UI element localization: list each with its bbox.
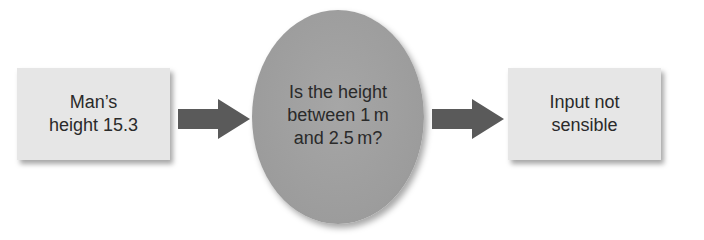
arrow-right-icon bbox=[178, 99, 250, 139]
decision-ellipse: Is the height between 1 m and 2.5 m? bbox=[252, 10, 424, 224]
decision-line-1: Is the height bbox=[287, 81, 389, 104]
output-box: Input not sensible bbox=[508, 68, 661, 160]
input-box: Man’s height 15.3 bbox=[17, 68, 170, 160]
output-box-line-1: Input not bbox=[549, 91, 619, 114]
input-box-line-2: height 15.3 bbox=[49, 114, 138, 137]
input-box-line-1: Man’s bbox=[49, 91, 138, 114]
decision-line-2: between 1 m bbox=[287, 104, 389, 127]
arrow-right-icon bbox=[432, 99, 504, 139]
decision-line-3: and 2.5 m? bbox=[287, 127, 389, 150]
output-box-line-2: sensible bbox=[549, 114, 619, 137]
